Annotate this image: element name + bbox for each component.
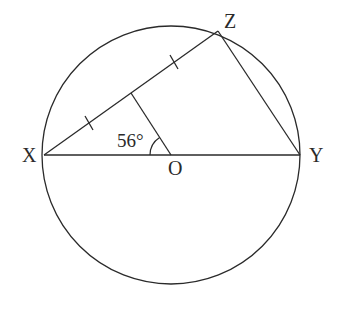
geometry-diagram: 56° Z X Y O	[0, 0, 342, 311]
chord-zy	[218, 31, 300, 155]
label-y: Y	[309, 144, 323, 166]
label-z: Z	[224, 10, 236, 32]
label-angle: 56°	[117, 130, 144, 151]
equal-tick-mark-1	[85, 116, 93, 130]
label-x: X	[22, 144, 37, 166]
angle-arc	[150, 137, 160, 155]
equal-tick-mark-2	[170, 55, 178, 69]
label-o: O	[168, 157, 182, 179]
